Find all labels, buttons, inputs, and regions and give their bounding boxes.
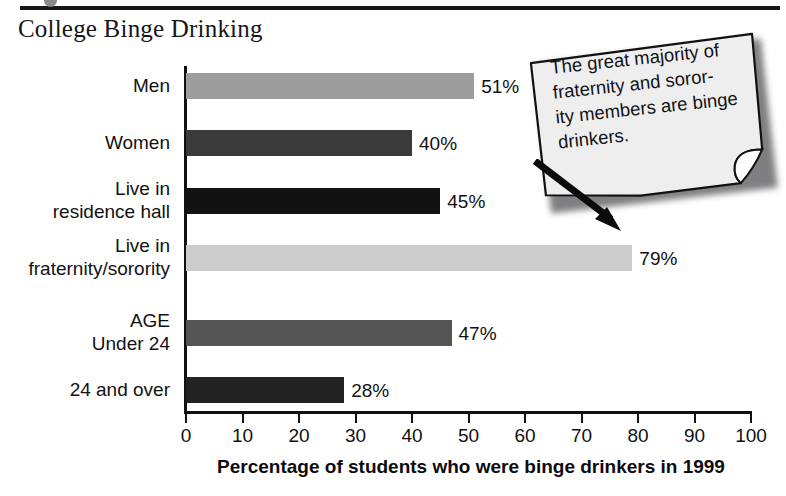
category-label-line: Men xyxy=(133,74,170,97)
category-label: AGEUnder 24 xyxy=(92,309,178,355)
bar xyxy=(186,377,344,403)
x-axis-tick xyxy=(242,414,244,423)
x-axis-tick-label: 100 xyxy=(735,425,767,447)
x-axis-tick xyxy=(298,414,300,423)
x-axis-tick xyxy=(355,414,357,423)
x-axis-tick xyxy=(185,414,187,423)
category-label-line: fraternity/sorority xyxy=(29,257,170,280)
x-axis-tick-label: 80 xyxy=(627,425,648,447)
bar xyxy=(186,188,440,214)
category-label-line: Women xyxy=(105,131,170,154)
category-label-line: residence hall xyxy=(53,200,170,223)
bar-value-label: 40% xyxy=(419,133,457,155)
x-axis-tick-label: 10 xyxy=(232,425,253,447)
x-axis-tick xyxy=(581,414,583,423)
category-label-line: Under 24 xyxy=(92,332,170,355)
x-axis-tick-label: 30 xyxy=(345,425,366,447)
x-axis-tick-label: 60 xyxy=(514,425,535,447)
category-label: Live infraternity/sorority xyxy=(29,234,178,280)
bar xyxy=(186,320,452,346)
category-label-line: AGE xyxy=(92,309,170,332)
x-axis-tick-label: 20 xyxy=(288,425,309,447)
category-label-line: Live in xyxy=(53,177,170,200)
bar-value-label: 47% xyxy=(459,323,497,345)
x-axis-tick-label: 50 xyxy=(458,425,479,447)
category-label-line: Live in xyxy=(29,234,170,257)
x-axis-tick xyxy=(750,414,752,423)
callout-annotation: The great majority of fraternity and sor… xyxy=(533,41,781,226)
x-axis-tick xyxy=(637,414,639,423)
category-label: Live inresidence hall xyxy=(53,177,178,223)
x-axis-tick-label: 70 xyxy=(571,425,592,447)
bar-chart: MenWomenLive inresidence hallLive infrat… xyxy=(0,0,786,496)
category-label-column: MenWomenLive inresidence hallLive infrat… xyxy=(0,0,178,420)
x-axis-tick xyxy=(524,414,526,423)
bar xyxy=(186,130,412,156)
category-label: 24 and over xyxy=(70,378,178,401)
x-axis-tick xyxy=(468,414,470,423)
x-axis-tick-label: 0 xyxy=(181,425,192,447)
callout-arrow-icon xyxy=(533,159,663,254)
category-label: Women xyxy=(105,131,178,154)
category-label: Men xyxy=(133,74,178,97)
y-axis-line xyxy=(184,66,187,414)
callout-text: The great majority of fraternity and sor… xyxy=(549,33,764,154)
x-axis-tick xyxy=(694,414,696,423)
x-axis-tick xyxy=(411,414,413,423)
x-axis-tick-label: 40 xyxy=(401,425,422,447)
category-label-line: 24 and over xyxy=(70,378,170,401)
bar xyxy=(186,73,474,99)
bar-value-label: 45% xyxy=(447,191,485,213)
bar-value-label: 51% xyxy=(481,76,519,98)
x-axis-tick-label: 90 xyxy=(684,425,705,447)
bar-value-label: 28% xyxy=(351,380,389,402)
x-axis-title: Percentage of students who were binge dr… xyxy=(186,456,756,478)
